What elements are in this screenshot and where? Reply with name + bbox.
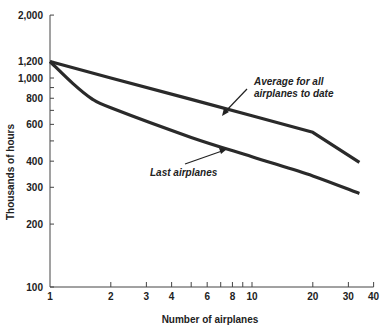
y-tick-label: 400 xyxy=(26,156,43,167)
x-tick-label: 40 xyxy=(368,291,380,302)
x-axis-title: Number of airplanes xyxy=(162,314,259,325)
x-tick-label: 1 xyxy=(47,291,53,302)
y-tick-label: 200 xyxy=(26,219,43,230)
x-tick-label: 4 xyxy=(169,291,175,302)
annotation-average-line1: Average for all xyxy=(253,76,324,87)
y-tick-label: 2,000 xyxy=(18,10,43,21)
arrowhead-icon xyxy=(219,148,227,154)
x-tick-label: 3 xyxy=(144,291,150,302)
y-tick-label: 100 xyxy=(26,282,43,293)
ticks: 2,0001,2001,0008006004003002001001234681… xyxy=(18,10,380,302)
x-tick-label: 8 xyxy=(230,291,236,302)
learning-curve-chart: 2,0001,2001,0008006004003002001001234681… xyxy=(0,0,387,334)
y-tick-label: 800 xyxy=(26,93,43,104)
x-tick-label: 30 xyxy=(343,291,355,302)
x-tick-label: 20 xyxy=(307,291,319,302)
axes xyxy=(50,15,374,287)
y-axis-title: Thousands of hours xyxy=(5,124,16,221)
arrow-last xyxy=(185,148,227,164)
y-tick-label: 1,000 xyxy=(18,73,43,84)
x-tick-label: 10 xyxy=(246,291,258,302)
x-tick-label: 2 xyxy=(108,291,114,302)
y-tick-label: 300 xyxy=(26,182,43,193)
y-tick-label: 600 xyxy=(26,119,43,130)
y-tick-label: 1,200 xyxy=(18,56,43,67)
annotation-last: Last airplanes xyxy=(150,167,218,178)
x-tick-label: 6 xyxy=(204,291,210,302)
annotation-average-line2: airplanes to date xyxy=(254,88,334,99)
